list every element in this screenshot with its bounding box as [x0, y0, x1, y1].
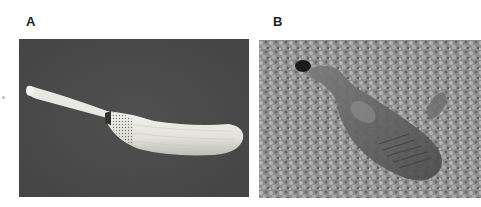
photo-panel-a [19, 39, 249, 197]
specimen-b-image [259, 40, 481, 198]
panel-label-a: A [26, 14, 35, 29]
panel-label-b: B [273, 14, 282, 29]
specimen-a-image [19, 39, 249, 197]
photo-panel-b [259, 40, 481, 198]
stray-mark [2, 96, 5, 99]
